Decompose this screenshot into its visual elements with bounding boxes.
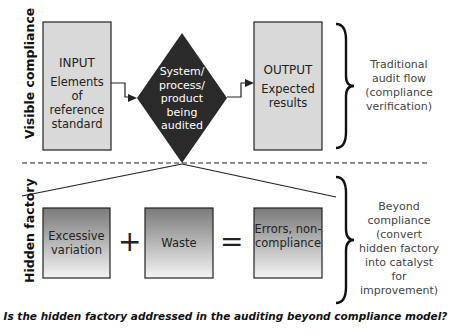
figure-caption: Is the hidden factory addressed in the a…	[0, 310, 451, 322]
hidden-box-1-text: Excessive variation	[45, 229, 108, 257]
arrow-head-icon	[245, 79, 254, 87]
hidden-box-3-text: Errors, non-compliance	[254, 222, 322, 250]
process-text: System/ process/ product being audited	[152, 65, 212, 133]
output-title: OUTPUT	[254, 63, 322, 77]
funnel-line-right	[182, 164, 336, 197]
beyond-compliance-note: Beyond compliance (convert hidden factor…	[357, 200, 441, 298]
hidden-factory-label: Hidden factory	[22, 178, 37, 283]
arrow-head-icon	[128, 94, 137, 102]
plus-operator: +	[118, 228, 141, 256]
brace-bottom-icon	[336, 177, 354, 303]
funnel-line-left	[22, 164, 182, 196]
visible-compliance-label: Visible compliance	[22, 8, 37, 139]
arrow-process-to-output	[227, 83, 248, 97]
hidden-box-2-text: Waste	[145, 236, 213, 250]
input-body: Elements of reference standard	[46, 75, 108, 131]
equals-operator: =	[220, 228, 243, 256]
input-title: INPUT	[43, 56, 111, 70]
traditional-audit-note: Traditional audit flow (compliance verif…	[360, 58, 438, 114]
brace-top-icon	[336, 24, 354, 148]
output-body: Expected results	[256, 82, 320, 110]
